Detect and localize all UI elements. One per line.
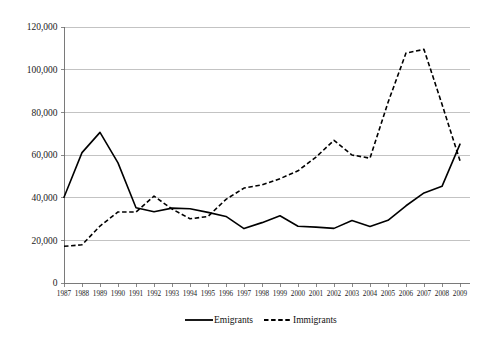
y-tick-label: 40,000 [31,193,57,203]
x-tick-label: 1998 [255,290,270,298]
x-tick-label: 2005 [381,290,396,298]
y-tick-label: 100,000 [27,65,58,75]
x-tick-label: 2007 [417,290,432,298]
x-tick-label: 1994 [183,290,198,298]
x-tick-label: 1989 [93,290,108,298]
legend-label-emigrants: Emigrants [214,315,253,325]
x-tick-label: 1991 [129,290,144,298]
y-tick-label: 120,000 [27,22,58,32]
x-tick-label: 2004 [363,290,378,298]
chart-container: 120,000100,00080,00060,00040,00020,0000 … [0,0,497,337]
line-chart: 120,000100,00080,00060,00040,00020,0000 … [0,0,497,337]
x-axis-labels: 1987198819891990199119921993199419951996… [57,290,468,298]
x-tick-label: 1993 [165,290,180,298]
x-tick-label: 2000 [291,290,306,298]
x-tick-label: 1987 [57,290,72,298]
x-tick-label: 1990 [111,290,126,298]
x-tick-label: 2003 [345,290,360,298]
legend-label-immigrants: Immigrants [293,315,337,325]
chart-background [0,0,497,337]
y-tick-label: 0 [53,278,58,288]
x-tick-label: 2001 [309,290,324,298]
x-tick-label: 2002 [327,290,342,298]
x-tick-label: 1997 [237,290,252,298]
x-tick-label: 2009 [453,290,468,298]
x-tick-label: 1995 [201,290,216,298]
x-tick-label: 1988 [75,290,90,298]
x-tick-label: 1996 [219,290,234,298]
x-tick-label: 2006 [399,290,414,298]
x-tick-label: 2008 [435,290,450,298]
y-tick-label: 20,000 [31,236,57,246]
x-tick-label: 1992 [147,290,162,298]
y-tick-label: 80,000 [31,108,57,118]
x-tick-label: 1999 [273,290,288,298]
y-tick-label: 60,000 [31,150,57,160]
